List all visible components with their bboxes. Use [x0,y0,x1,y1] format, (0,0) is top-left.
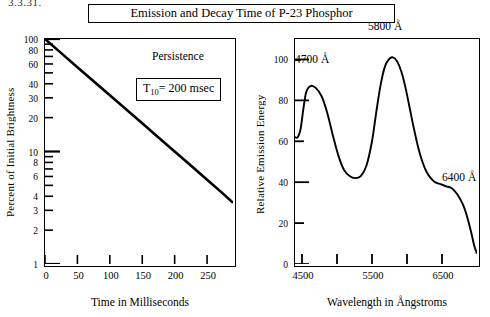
emission-y-tick: 100 [248,55,288,65]
persistence-y-tick: 8 [0,158,38,168]
emission-peak-label: 4700 Å [295,53,329,65]
persistence-y-tick: 80 [0,46,38,56]
chart-persistence: Percent of Initial Brightness Time in Mi… [0,26,248,317]
persistence-y-tick: 30 [0,94,38,104]
persistence-x-axis-label: Time in Milliseconds [44,296,236,308]
persistence-plot-area [44,38,236,267]
emission-y-tick: 60 [248,137,288,147]
t10-annotation-box: T10= 200 msec [136,78,221,101]
emission-x-axis-label: Wavelength in Ångstroms [284,296,490,308]
t10-subscript: 10 [150,87,159,97]
emission-x-tick: 6500 [433,270,454,281]
persistence-x-tick: 100 [103,270,119,281]
corner-note: 3.3.31. [8,0,42,8]
persistence-y-tick: 4 [0,192,38,202]
persistence-x-tick: 50 [73,270,84,281]
emission-y-tick: 0 [248,260,288,270]
persistence-x-tick: 200 [168,270,184,281]
persistence-annotation: Persistence [152,50,204,62]
emission-x-tick: 5500 [363,270,384,281]
persistence-x-tick: 0 [43,270,48,281]
persistence-y-tick: 40 [0,80,38,90]
persistence-y-tick: 3 [0,206,38,216]
persistence-x-tick: 150 [135,270,151,281]
emission-peak-label: 5800 Å [368,20,402,32]
decay-curve [45,39,233,203]
persistence-y-tick: 1 [0,260,38,270]
figure-title-box: Emission and Decay Time of P-23 Phosphor [88,4,395,23]
persistence-y-tick: 6 [0,172,38,182]
figure-body: Percent of Initial Brightness Time in Mi… [0,26,490,317]
emission-curve [295,57,477,253]
emission-y-tick: 20 [248,219,288,229]
persistence-y-tick: 20 [0,114,38,124]
persistence-y-tick: 2 [0,226,38,236]
page-title: Emission and Decay Time of P-23 Phosphor [130,6,352,21]
emission-y-tick: 40 [248,178,288,188]
t10-value: = 200 msec [159,81,214,95]
emission-y-tick: 80 [248,96,288,106]
emission-plot-area [294,38,480,267]
persistence-y-tick: 100 [0,35,38,45]
emission-x-tick: 4500 [293,270,314,281]
persistence-y-tick: 60 [0,60,38,70]
persistence-y-tick: 10 [0,148,38,158]
persistence-x-tick: 250 [200,270,216,281]
emission-peak-label: 6400 Å [442,171,476,183]
persistence-svg [45,39,233,264]
chart-emission-spectrum: Relative Emission Energy Wavelength in Å… [248,26,490,317]
emission-svg [295,39,477,264]
